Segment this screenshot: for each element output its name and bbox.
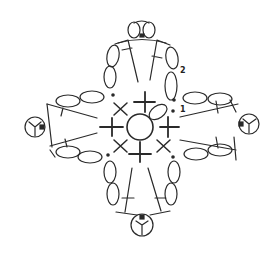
crochet-chart bbox=[0, 0, 277, 254]
round-label-1: 1 bbox=[180, 106, 186, 114]
picot-icon bbox=[131, 214, 153, 236]
round-label-2: 2 bbox=[180, 67, 186, 75]
petal-left bbox=[25, 91, 104, 163]
picot-icon bbox=[25, 117, 45, 137]
picot-icon bbox=[239, 114, 259, 134]
petal-right bbox=[180, 92, 259, 160]
picot-icon bbox=[128, 21, 155, 38]
single-crochet-group bbox=[100, 92, 179, 162]
petal-top bbox=[104, 21, 180, 100]
magic-ring-icon bbox=[127, 114, 153, 140]
petal-bottom bbox=[104, 161, 180, 236]
